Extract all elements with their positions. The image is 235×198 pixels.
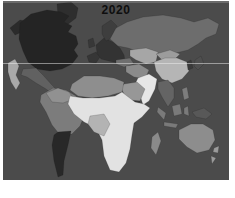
map-title: 2020 [3, 3, 229, 17]
page-background: 2020 [0, 0, 235, 198]
world-map-svg [3, 1, 229, 180]
world-map: 2020 [3, 1, 229, 180]
